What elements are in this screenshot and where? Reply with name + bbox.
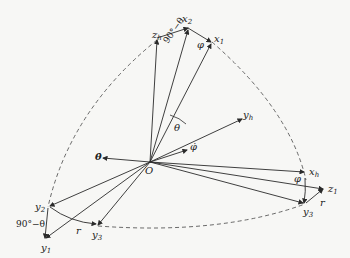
arc-y2-y1 — [45, 208, 48, 238]
label-y3-right: y3 — [303, 207, 313, 219]
label-yh: yh — [243, 110, 253, 122]
label-theta: θ — [174, 123, 180, 133]
dashed-arc-top-right — [212, 42, 306, 180]
label-phi-right: φ — [294, 174, 301, 184]
label-theta-dot: θ̇ — [95, 152, 102, 162]
vector-y2 — [50, 162, 150, 206]
label-y3-left: y3 — [92, 230, 102, 242]
label-y2: y2 — [35, 202, 45, 214]
label-z1: z1 — [328, 184, 338, 196]
vector-y1 — [46, 162, 150, 238]
dashed-arc-left — [48, 40, 157, 207]
label-x1: x1 — [214, 34, 224, 46]
label-r-left: r — [76, 226, 81, 236]
diagram-canvas: x2 zh x1 90°−θ φ yh θ φ̇ θ̇ O xh φ z1 r … — [0, 0, 350, 258]
vector-x1 — [150, 44, 211, 162]
vector-y3-left — [98, 162, 150, 225]
label-xh: xh — [309, 167, 319, 179]
label-phi-dot: φ̇ — [190, 142, 197, 152]
label-origin: O — [145, 166, 153, 176]
vector-theta-dot — [103, 158, 150, 162]
vector-x2 — [150, 30, 188, 162]
arc-y2-y3 — [50, 207, 96, 224]
dashed-arc-bottom — [98, 204, 305, 228]
arc-xh-y3 — [304, 178, 305, 203]
label-y1: y1 — [41, 243, 51, 255]
vector-zh — [150, 40, 157, 162]
vector-xh — [150, 162, 304, 172]
label-r-right: r — [320, 198, 325, 208]
label-angle-left: 90°−θ — [16, 220, 45, 229]
label-phi-top: φ — [197, 40, 204, 50]
label-zh: zh — [152, 30, 162, 42]
